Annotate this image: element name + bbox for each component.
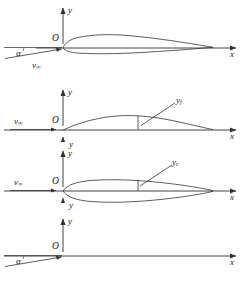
- origin-label: O: [52, 242, 59, 252]
- origin-label: O: [52, 34, 59, 44]
- y-axis-label: y: [68, 6, 72, 15]
- alpha-label: α: [16, 49, 21, 58]
- freestream-velocity-label: v∞: [32, 61, 41, 71]
- x-axis-label: x: [230, 193, 234, 202]
- thickness-label: yc: [172, 158, 179, 167]
- figure-canvas: [0, 0, 250, 281]
- freestream-velocity-arrow: [5, 49, 62, 59]
- y-axis-lower-label: y: [69, 201, 73, 210]
- alpha-arc: [23, 48, 24, 52]
- airfoil-upper-surface: [63, 35, 213, 48]
- thickness-lower-surface: [63, 191, 213, 202]
- x-axis-label: x: [230, 132, 234, 141]
- y-axis-label: y: [68, 217, 72, 226]
- panel-thickness: [4, 151, 236, 203]
- airfoil-decomposition-figure: y O x α v∞ y O x y v∞ yf y O x y v∞ yc y…: [0, 0, 250, 281]
- origin-label: O: [52, 116, 59, 126]
- freestream-velocity-label: v∞: [14, 178, 23, 188]
- y-axis-label: y: [68, 88, 72, 97]
- panel-camber: [4, 90, 236, 142]
- panel-flatplate: [4, 219, 236, 267]
- chord-incidence-arrow: [5, 257, 62, 267]
- x-axis-label: x: [230, 50, 234, 59]
- panel-airfoil: [4, 8, 236, 59]
- origin-label: O: [52, 177, 59, 187]
- x-axis-label: x: [230, 258, 234, 267]
- camber-label-leader: [141, 103, 175, 126]
- camber-line-label: yf: [176, 96, 182, 105]
- alpha-label: α: [16, 257, 21, 266]
- freestream-velocity-label: v∞: [14, 117, 23, 127]
- y-axis-label: y: [68, 149, 72, 158]
